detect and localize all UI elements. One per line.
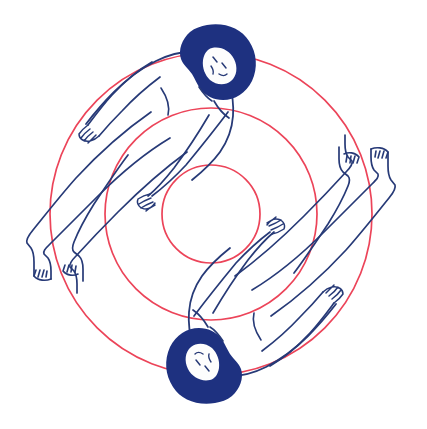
illustration-canvas <box>0 0 427 429</box>
illustration-root: Two figures within concentric circles Li… <box>0 0 427 429</box>
